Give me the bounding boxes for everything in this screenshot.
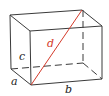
edge-top-right — [82, 10, 102, 26]
edge-top-front — [30, 26, 102, 31]
hidden-edge-right-bottom — [83, 63, 102, 79]
label-b: b — [65, 83, 72, 96]
hidden-edge-back-bottom — [11, 63, 83, 69]
label-c: c — [19, 50, 25, 63]
edge-back-left-vertical — [10, 15, 11, 69]
edge-top-back — [10, 10, 82, 15]
edge-front-left-vertical — [30, 31, 31, 85]
label-d: d — [47, 37, 54, 50]
box-diagram: d c a b — [0, 0, 109, 96]
label-a: a — [11, 75, 18, 88]
edge-top-left — [10, 15, 30, 31]
space-diagonal-d — [31, 10, 82, 85]
